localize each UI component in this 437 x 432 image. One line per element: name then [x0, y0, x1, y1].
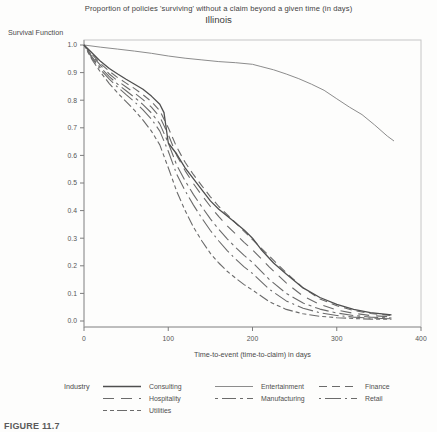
legend-item-hospitality: Hospitality: [102, 394, 214, 403]
legend-item-label: Finance: [365, 383, 390, 390]
manufacturing-line-sample-icon: [214, 394, 254, 403]
y-tick-label: 0.8: [68, 97, 78, 104]
legend-items: ConsultingEntertainmentFinanceHospitalit…: [102, 380, 414, 416]
x-tick-label: 400: [415, 335, 427, 342]
legend-item-label: Manufacturing: [261, 395, 305, 402]
x-tick-label: 100: [163, 335, 175, 342]
utilities-line-sample-icon: [102, 406, 142, 415]
series-utilities: [84, 45, 392, 319]
legend-title: Industry: [64, 382, 90, 391]
y-tick-label: 1.0: [68, 41, 78, 48]
legend-item-label: Entertainment: [261, 383, 304, 390]
legend-item-label: Retail: [365, 395, 383, 402]
x-axis-label: Time-to-event (time-to-claim) in days: [84, 350, 421, 359]
legend-item-label: Utilities: [149, 407, 171, 414]
y-tick-label: 0.2: [68, 262, 78, 269]
y-tick-label: 0.3: [68, 235, 78, 242]
legend: Industry ConsultingEntertainmentFinanceH…: [0, 380, 437, 420]
legend-item-finance: Finance: [318, 382, 414, 391]
y-tick-label: 0.6: [68, 152, 78, 159]
finance-line-sample-icon: [318, 382, 358, 391]
y-tick-label: 0.4: [68, 207, 78, 214]
x-tick-label: 0: [82, 335, 86, 342]
y-tick-label: 0.1: [68, 290, 78, 297]
series-hospitality: [84, 45, 392, 317]
series-retail: [84, 45, 392, 319]
y-tick-label: 0.9: [68, 69, 78, 76]
survival-plot: 1.00.90.80.70.60.50.40.30.20.10.00100200…: [0, 38, 437, 350]
legend-item-consulting: Consulting: [102, 382, 214, 391]
hospitality-line-sample-icon: [102, 394, 142, 403]
series-finance: [84, 45, 392, 316]
figure-caption: FIGURE 11.7: [4, 421, 60, 431]
retail-line-sample-icon: [318, 394, 358, 403]
series-manufacturing: [84, 45, 392, 318]
y-tick-label: 0.0: [68, 317, 78, 324]
x-tick-label: 300: [331, 335, 343, 342]
consulting-line-sample-icon: [102, 382, 142, 391]
legend-item-manufacturing: Manufacturing: [214, 394, 318, 403]
y-tick-label: 0.5: [68, 179, 78, 186]
chart-title: Proportion of policies 'surviving' witho…: [0, 4, 437, 13]
y-axis-label: Survival Function: [8, 28, 63, 37]
y-tick-label: 0.7: [68, 124, 78, 131]
chart-subtitle: Illinois: [0, 14, 437, 25]
legend-item-label: Hospitality: [149, 395, 181, 402]
entertainment-line-sample-icon: [214, 382, 254, 391]
legend-item-utilities: Utilities: [102, 406, 214, 415]
legend-item-entertainment: Entertainment: [214, 382, 318, 391]
series-consulting: [84, 45, 392, 315]
legend-item-retail: Retail: [318, 394, 414, 403]
plot-frame: [84, 40, 421, 327]
series-entertainment: [84, 45, 394, 141]
legend-item-label: Consulting: [149, 383, 182, 390]
x-tick-label: 200: [247, 335, 259, 342]
